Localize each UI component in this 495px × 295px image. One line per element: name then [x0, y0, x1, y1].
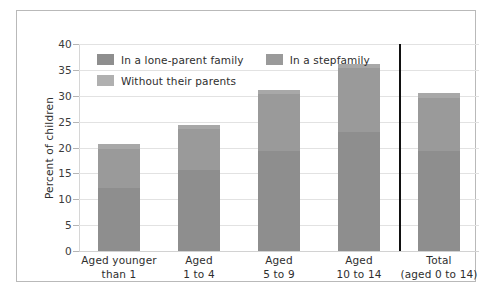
- y-tick-30: [73, 96, 79, 97]
- category-separator-line: [399, 44, 401, 251]
- y-tick-35: [73, 70, 79, 71]
- legend-swatch-lone-parent: [97, 54, 114, 65]
- y-tick-label-0: 0: [65, 245, 72, 257]
- y-tick-5: [73, 225, 79, 226]
- bar-1: [98, 144, 140, 251]
- y-axis-title-label: Percent of children: [43, 96, 55, 198]
- bar-segment-2: [258, 94, 300, 150]
- x-axis-label-1: Aged younger than 1: [79, 254, 159, 281]
- legend-label-lone-parent: In a lone-parent family: [121, 54, 244, 66]
- legend-label-stepfamily: In a stepfamily: [290, 54, 370, 66]
- bar-segment-2: [98, 149, 140, 188]
- y-tick-label-15: 15: [58, 167, 72, 179]
- y-tick-25: [73, 122, 79, 123]
- legend-row-1: In a lone-parent family In a stepfamily: [97, 51, 377, 68]
- bar-segment-1: [418, 151, 460, 251]
- bar-3: [258, 90, 300, 251]
- legend-label-without-parents: Without their parents: [121, 75, 236, 87]
- x-axis-labels: Aged younger than 1Aged 1 to 4Aged 5 to …: [79, 254, 479, 288]
- y-tick-20: [73, 148, 79, 149]
- bar-2: [178, 125, 220, 251]
- bar-segment-1: [258, 151, 300, 251]
- legend-item-stepfamily: In a stepfamily: [266, 54, 370, 66]
- x-axis-label-2: Aged 1 to 4: [159, 254, 239, 281]
- y-tick-label-30: 30: [58, 90, 72, 102]
- bar-segment-1: [178, 170, 220, 251]
- legend-item-lone-parent: In a lone-parent family: [97, 54, 244, 66]
- x-axis-label-3: Aged 5 to 9: [239, 254, 319, 281]
- y-tick-10: [73, 199, 79, 200]
- x-axis-label-4: Aged 10 to 14: [319, 254, 399, 281]
- legend-row-2: Without their parents: [97, 72, 377, 89]
- bar-5: [418, 93, 460, 251]
- y-tick-label-35: 35: [58, 64, 72, 76]
- legend-swatch-without-parents: [97, 75, 114, 86]
- y-tick-15: [73, 173, 79, 174]
- chart-frame: Percent of children 0510152025303540 Age…: [16, 10, 476, 282]
- y-tick-label-25: 25: [58, 116, 72, 128]
- bar-segment-2: [418, 98, 460, 151]
- gridline-40: [79, 44, 479, 45]
- x-axis-label-5: Total (aged 0 to 14): [399, 254, 479, 281]
- y-tick-0: [73, 251, 79, 252]
- legend-swatch-stepfamily: [266, 54, 283, 65]
- y-tick-label-40: 40: [58, 38, 72, 50]
- chart-legend: In a lone-parent family In a stepfamily …: [97, 51, 377, 93]
- bar-segment-1: [98, 188, 140, 251]
- legend-item-without-parents: Without their parents: [97, 75, 236, 87]
- y-tick-label-20: 20: [58, 142, 72, 154]
- y-axis-title: Percent of children: [41, 44, 57, 251]
- bar-segment-2: [178, 129, 220, 170]
- y-tick-label-5: 5: [65, 219, 72, 231]
- y-tick-40: [73, 44, 79, 45]
- bar-segment-1: [338, 132, 380, 251]
- gridline-0: [79, 251, 479, 252]
- y-tick-label-10: 10: [58, 193, 72, 205]
